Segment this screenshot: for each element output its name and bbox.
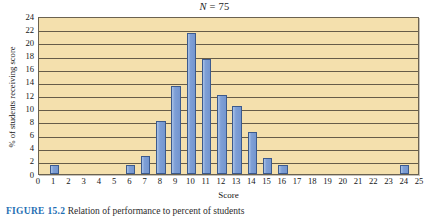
y-axis-tick-22: 22 <box>12 26 34 35</box>
figure-container: N = 75 % of students receiving score 024… <box>0 0 429 218</box>
y-axis-tick-12: 12 <box>12 92 34 101</box>
figure-caption: FIGURE 15.2 Relation of performance to p… <box>6 206 429 216</box>
y-axis-tick-2: 2 <box>12 157 34 166</box>
x-axis-label: Score <box>38 190 419 200</box>
y-axis-tick-10: 10 <box>12 105 34 114</box>
y-axis-tick-18: 18 <box>12 52 34 61</box>
bar-score-1 <box>50 165 59 174</box>
chart-title-value: = 75 <box>210 1 230 12</box>
figure-caption-label: FIGURE 15.2 <box>6 206 65 216</box>
y-axis-tick-8: 8 <box>12 118 34 127</box>
bar-score-8 <box>156 121 165 174</box>
bar-score-6 <box>126 165 135 174</box>
bar-score-24 <box>400 165 409 174</box>
y-axis-tick-4: 4 <box>12 144 34 153</box>
y-axis-tick-20: 20 <box>12 39 34 48</box>
chart-title: N = 75 <box>0 1 429 12</box>
plot-area <box>38 17 419 175</box>
y-axis-tick-14: 14 <box>12 78 34 87</box>
y-axis-tick-6: 6 <box>12 131 34 140</box>
chart-title-symbol: N <box>200 1 207 12</box>
x-axis-tick-25: 25 <box>409 177 429 186</box>
bar-score-14 <box>248 132 257 174</box>
bar-score-16 <box>278 165 287 174</box>
y-axis-tick-24: 24 <box>12 13 34 22</box>
bar-series <box>39 18 418 174</box>
bar-score-11 <box>202 59 211 174</box>
bar-score-10 <box>187 33 196 174</box>
figure-caption-text: Relation of performance to percent of st… <box>68 206 245 216</box>
bar-score-7 <box>141 156 150 174</box>
bar-score-13 <box>232 106 241 174</box>
y-axis-tick-16: 16 <box>12 65 34 74</box>
bar-score-12 <box>217 95 226 174</box>
bar-score-9 <box>171 86 180 174</box>
bar-score-15 <box>263 158 272 174</box>
